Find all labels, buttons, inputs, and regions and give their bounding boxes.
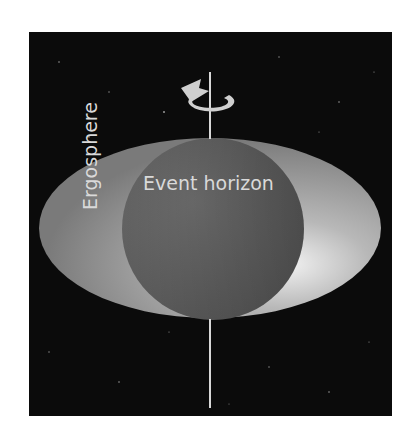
black-hole-figure: Event horizon Ergosphere [29, 32, 392, 416]
event-horizon-label: Event horizon [143, 172, 274, 194]
diagram-graphic [29, 32, 392, 416]
rotation-arrow-icon [181, 79, 234, 111]
ergosphere-label: Ergosphere [79, 102, 101, 210]
